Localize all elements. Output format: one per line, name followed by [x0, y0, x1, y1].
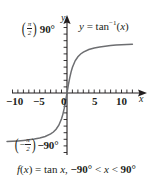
- lower-asymptote-degrees: −90°: [38, 139, 59, 151]
- pi-over-two-fraction: π 2: [27, 21, 33, 37]
- fraction-numerator: π: [25, 137, 31, 144]
- upper-asymptote-fraction: ( π 2 ): [21, 20, 38, 37]
- equation-exponent: −1: [109, 19, 116, 27]
- equation-equals: =: [84, 20, 96, 32]
- equation-function: tan: [96, 20, 109, 32]
- upper-asymptote-label-group: ( π 2 ) 90°: [21, 20, 55, 37]
- fraction-numerator: π: [27, 21, 33, 28]
- x-tick-label-5: 5: [92, 96, 98, 107]
- left-paren: (: [22, 20, 26, 37]
- x-tick-label-neg10: −10: [6, 96, 23, 107]
- upper-asymptote-degrees: 90°: [40, 23, 55, 35]
- fraction-denominator: 2: [27, 30, 33, 37]
- lower-asymptote-fraction: ( − π 2 ): [14, 136, 37, 153]
- pi-over-two-fraction: π 2: [25, 137, 31, 153]
- equation-close-paren: ): [125, 20, 129, 32]
- x-tick-label-10: 10: [116, 96, 127, 107]
- lower-asymptote-label-group: ( − π 2 ) −90°: [14, 136, 58, 153]
- fraction-denominator: 2: [25, 146, 31, 153]
- caption-lt-2: <: [109, 163, 121, 175]
- left-paren: (: [15, 136, 19, 153]
- caption-lt-1: <: [92, 163, 104, 175]
- caption-upper-bound: 90°: [121, 163, 136, 175]
- y-axis-label: y: [61, 13, 65, 23]
- caption-lower-bound: −90°: [71, 163, 93, 175]
- inverse-tangent-graph-figure: −10 −5 0 5 10 x y ( π 2 ) 90° ( − π 2 ): [0, 0, 153, 184]
- right-paren: ): [33, 20, 37, 37]
- figure-caption: f(x) = tan x, −90° < x < 90°: [0, 163, 153, 175]
- caption-equals-tan: = tan: [32, 163, 60, 175]
- x-tick-label-neg5: −5: [33, 96, 45, 107]
- x-axis-label: x: [139, 94, 143, 104]
- x-tick-label-zero: 0: [61, 96, 67, 107]
- right-paren: ): [32, 136, 36, 153]
- curve-equation-label: y = tan−1(x): [79, 19, 129, 32]
